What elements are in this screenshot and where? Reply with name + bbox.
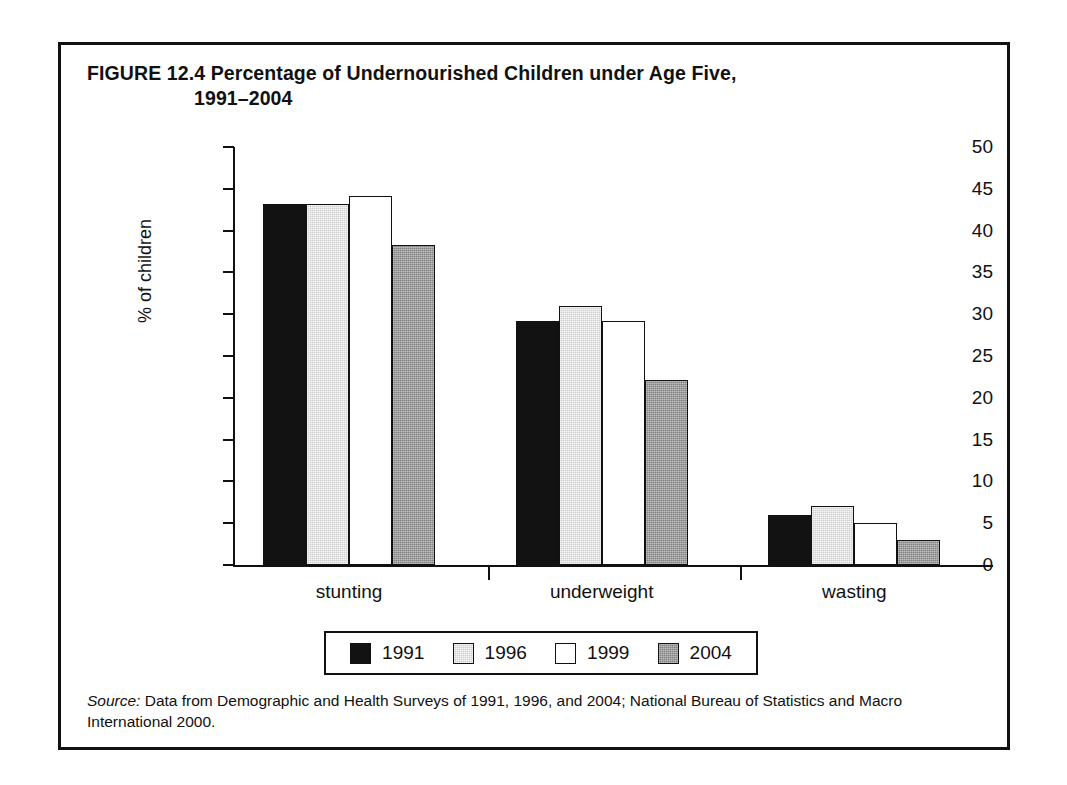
chart-legend: 1991199619992004	[324, 631, 758, 675]
legend-swatch-icon	[350, 643, 371, 664]
source-body: Data from Demographic and Health Surveys…	[87, 692, 902, 730]
bar-underweight-2004	[645, 380, 688, 565]
bars-layer	[235, 147, 993, 565]
figure-number: FIGURE 12.4	[87, 62, 205, 84]
legend-item-1999: 1999	[555, 642, 629, 664]
bar-wasting-1999	[854, 523, 897, 565]
x-axis-category-label: underweight	[550, 581, 654, 603]
bar-stunting-2004	[392, 245, 435, 565]
source-label: Source:	[87, 692, 140, 709]
y-axis-title: % of children	[135, 219, 156, 323]
x-axis-group-separator	[488, 567, 490, 580]
bar-wasting-2004	[897, 540, 940, 565]
bar-underweight-1999	[602, 321, 645, 565]
source-note: Source: Data from Demographic and Health…	[87, 690, 987, 733]
figure-title-line1: Percentage of Undernourished Children un…	[211, 62, 737, 84]
figure-frame: FIGURE 12.4 Percentage of Undernourished…	[58, 42, 1010, 750]
x-axis-line	[233, 565, 993, 567]
chart-plot-area: % of children 05101520253035404550 stunt…	[173, 143, 993, 613]
bar-stunting-1996	[306, 204, 349, 565]
x-axis-group-separator	[740, 567, 742, 580]
bar-wasting-1996	[811, 506, 854, 565]
legend-item-2004: 2004	[658, 642, 732, 664]
bar-stunting-1991	[263, 204, 306, 565]
bar-stunting-1999	[349, 196, 392, 566]
legend-swatch-icon	[453, 643, 474, 664]
bar-underweight-1991	[516, 321, 559, 565]
x-axis-category-label: wasting	[822, 581, 886, 603]
legend-swatch-icon	[555, 643, 576, 664]
figure-title: FIGURE 12.4 Percentage of Undernourished…	[87, 61, 907, 111]
figure-title-line2: 1991–2004	[194, 86, 907, 111]
legend-item-1996: 1996	[453, 642, 527, 664]
bar-underweight-1996	[559, 306, 602, 565]
bar-wasting-1991	[768, 515, 811, 565]
x-axis-category-label: stunting	[316, 581, 383, 603]
legend-label: 1991	[382, 642, 424, 664]
legend-label: 1996	[485, 642, 527, 664]
legend-label: 2004	[690, 642, 732, 664]
legend-label: 1999	[587, 642, 629, 664]
legend-item-1991: 1991	[350, 642, 424, 664]
legend-swatch-icon	[658, 643, 679, 664]
